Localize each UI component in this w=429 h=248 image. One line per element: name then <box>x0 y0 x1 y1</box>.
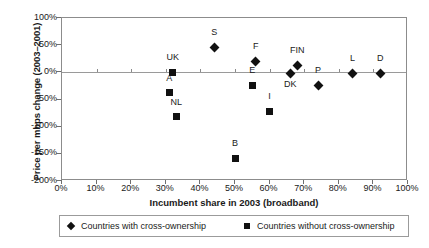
data-point-label: DK <box>268 80 312 89</box>
square-marker-icon <box>249 82 256 89</box>
x-axis-tick-mark <box>96 180 97 184</box>
x-axis-tick-mark <box>199 180 200 184</box>
y-axis-tick-label: 0% <box>0 67 57 76</box>
data-point-label: NL <box>154 98 198 107</box>
y-axis-tick-label: -50% <box>0 94 57 103</box>
data-point-label: D <box>358 54 402 63</box>
x-axis-tick-mark <box>338 180 339 184</box>
x-axis-tick-mark <box>269 180 270 184</box>
zero-line-tick-mark <box>304 69 305 72</box>
zero-line-tick-mark <box>97 69 98 72</box>
data-point-label: A <box>147 74 191 83</box>
zero-line-tick-mark <box>373 69 374 72</box>
data-point-label: P <box>296 66 340 75</box>
y-axis-tick-label: -150% <box>0 148 57 157</box>
data-point-label: S <box>192 28 236 37</box>
x-axis-tick-mark <box>303 180 304 184</box>
x-axis-tick-mark <box>234 180 235 184</box>
scatter-chart: Price per mbps change (2003–2001) 100%50… <box>0 0 429 248</box>
x-axis-tick-mark <box>61 180 62 184</box>
square-marker-icon <box>266 108 273 115</box>
diamond-marker-icon <box>313 80 323 90</box>
legend-label: Countries without cross-ownership <box>257 221 395 231</box>
square-marker-icon <box>244 223 250 229</box>
diamond-marker-icon <box>285 68 295 78</box>
zero-line-tick-mark <box>339 69 340 72</box>
legend-item-without-cross-ownership: Countries without cross-ownership <box>244 221 395 231</box>
y-axis-tick-label: 100% <box>0 13 57 22</box>
zero-line-tick-mark <box>200 69 201 72</box>
chart-legend: Countries with cross-ownership Countries… <box>59 215 409 237</box>
square-marker-icon <box>232 155 239 162</box>
x-axis-title: Incumbent share in 2003 (broadband) <box>61 197 407 208</box>
zero-line-tick-mark <box>270 69 271 72</box>
data-point-label: FIN <box>275 46 319 55</box>
data-point-label: UK <box>151 53 195 62</box>
data-point-label: I <box>248 92 292 101</box>
legend-label: Countries with cross-ownership <box>81 221 206 231</box>
diamond-marker-icon <box>67 222 75 230</box>
data-point-label: E <box>230 66 274 75</box>
legend-item-with-cross-ownership: Countries with cross-ownership <box>68 221 206 231</box>
x-axis-tick-mark <box>130 180 131 184</box>
zero-line-tick-mark <box>131 69 132 72</box>
y-axis-tick-label: 50% <box>0 40 57 49</box>
plot-area: SFFINDKPLDUKANLBEI <box>61 17 407 180</box>
diamond-marker-icon <box>209 42 219 52</box>
zero-line-tick-mark <box>235 69 236 72</box>
x-axis-tick-label: 100% <box>387 184 427 193</box>
diamond-marker-icon <box>348 68 358 78</box>
x-axis-tick-mark <box>407 180 408 184</box>
data-point-label: B <box>213 139 257 148</box>
square-marker-icon <box>166 89 173 96</box>
x-axis-tick-mark <box>165 180 166 184</box>
x-axis-tick-mark <box>372 180 373 184</box>
square-marker-icon <box>173 113 180 120</box>
diamond-marker-icon <box>375 68 385 78</box>
data-point-label: F <box>234 42 278 51</box>
zero-line-tick-mark <box>166 69 167 72</box>
y-axis-tick-label: -100% <box>0 121 57 130</box>
